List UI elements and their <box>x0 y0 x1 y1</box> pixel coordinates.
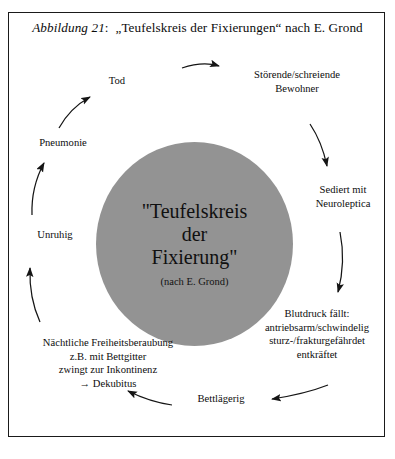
figure-page: Abbildung 21: „Teufelskreis der Fixierun… <box>0 0 395 459</box>
node-bettlaegerig: Bettlägerig <box>166 392 276 406</box>
node-sediert-line-1: Sediert mit <box>295 183 391 197</box>
node-blutdruck-line-3: sturz-/frakturgefährdet <box>243 334 391 348</box>
node-tod-line-1: Tod <box>82 74 152 88</box>
center-line-1: "Teufelskreis <box>142 200 248 223</box>
caption-title: „Teufelskreis der Fixierungen“ nach E. G… <box>115 20 362 35</box>
node-tod: Tod <box>82 74 152 88</box>
node-naechtliche-line-1: Nächtliche Freiheitsberaubung <box>16 336 200 350</box>
node-blutdruck-line-1: Blutdruck fällt: <box>243 307 391 321</box>
node-bettlaegerig-line-1: Bettlägerig <box>166 392 276 406</box>
figure-number: Abbildung 21 <box>32 20 105 35</box>
node-naechtliche-freiheitsberaubung: Nächtliche Freiheitsberaubung z.B. mit B… <box>16 336 200 390</box>
node-sediert-neuroleptica: Sediert mit Neuroleptica <box>295 183 391 210</box>
node-naechtliche-line-3: zwingt zur Inkontinenz <box>16 363 200 377</box>
center-line-2: der <box>182 223 208 246</box>
center-line-3: Fixierung" <box>152 246 238 269</box>
node-stoerende-bewohner: Störende/schreiende Bewohner <box>222 68 372 95</box>
node-naechtliche-line-2: z.B. mit Bettgitter <box>16 350 200 364</box>
node-blutdruck-faellt: Blutdruck fällt: antriebsarm/schwindelig… <box>243 307 391 361</box>
figure-caption: Abbildung 21: „Teufelskreis der Fixierun… <box>0 20 395 36</box>
node-pneumonie: Pneumonie <box>17 136 109 150</box>
node-naechtliche-line-4: → Dekubitus <box>16 377 200 391</box>
node-sediert-line-2: Neuroleptica <box>295 197 391 211</box>
node-unruhig: Unruhig <box>17 228 93 242</box>
caption-separator: : <box>105 20 109 35</box>
node-blutdruck-line-4: entkräftet <box>243 348 391 362</box>
node-stoerende-line-1: Störende/schreiende <box>222 68 372 82</box>
node-unruhig-line-1: Unruhig <box>17 228 93 242</box>
center-attribution: (nach E. Grond) <box>161 276 229 288</box>
node-pneumonie-line-1: Pneumonie <box>17 136 109 150</box>
node-stoerende-line-2: Bewohner <box>222 82 372 96</box>
node-blutdruck-line-2: antriebsarm/schwindelig <box>243 321 391 335</box>
